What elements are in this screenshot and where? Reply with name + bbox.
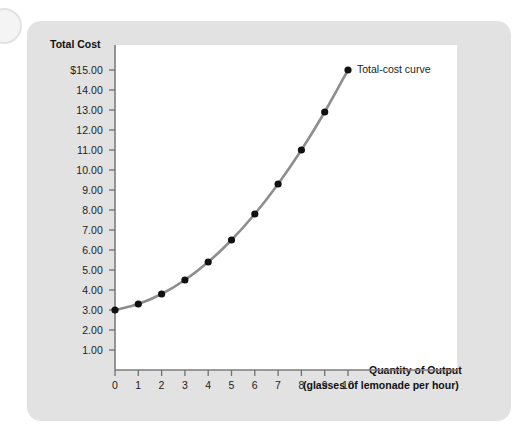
data-point: [181, 276, 188, 283]
total-cost-curve: [115, 70, 348, 310]
data-point: [321, 108, 328, 115]
axes-group: [115, 45, 457, 370]
data-point-group: [111, 66, 351, 313]
data-point: [344, 66, 351, 73]
data-point: [205, 258, 212, 265]
x-tick-marks: [115, 370, 348, 376]
data-point: [275, 180, 282, 187]
data-point: [135, 300, 142, 307]
chart-canvas: [0, 0, 529, 441]
data-point: [158, 290, 165, 297]
data-point: [298, 146, 305, 153]
total-cost-curve-line: [115, 70, 348, 310]
data-point: [111, 306, 118, 313]
data-point: [228, 236, 235, 243]
data-point: [251, 210, 258, 217]
